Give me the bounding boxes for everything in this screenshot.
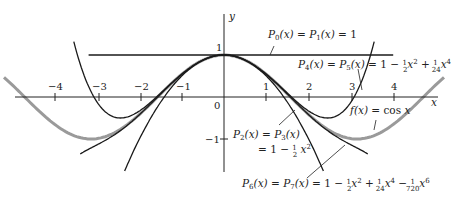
y-tick-label: −1 [205, 134, 220, 145]
origin-label: 0 [214, 100, 220, 111]
x-tick-label: −2 [134, 81, 149, 92]
x-tick-label: −3 [92, 81, 107, 92]
x-tick-label: −1 [176, 81, 191, 92]
y-axis-label: y [228, 10, 236, 22]
svg-text:= 1 − 12 x2: = 1 − 12 x2 [258, 143, 311, 159]
x-tick-label: 4 [391, 81, 397, 92]
taylor-polynomial-chart: −4 −3 −2 −1 1 2 3 4 0 1 −1 y x P0(x) = P… [0, 0, 451, 203]
svg-text:P4(x) = P5(x) = 1 − 12x2 + 124: P4(x) = P5(x) = 1 − 12x2 + 124x4 [297, 58, 451, 74]
x-tick-label: 3 [349, 81, 355, 92]
x-tick-label: −4 [48, 81, 63, 92]
x-tick-label: 2 [306, 81, 312, 92]
svg-text:f(x) = cos x: f(x) = cos x [349, 104, 410, 116]
annotation-p4: P4(x) = P5(x) = 1 − 12x2 + 124x4 [297, 58, 451, 90]
x-axis-label: x [431, 96, 437, 108]
svg-text:P0(x) = P1(x) = 1: P0(x) = P1(x) = 1 [267, 28, 357, 42]
y-tick-label: 1 [216, 42, 222, 53]
svg-text:P2(x) = P3(x): P2(x) = P3(x) [232, 128, 300, 142]
svg-text:P6(x) = P7(x) = 1 − 12x2 + 124: P6(x) = P7(x) = 1 − 12x2 + 124x4 − 1720x… [241, 177, 430, 193]
annotation-p0: P0(x) = P1(x) = 1 [267, 28, 357, 55]
annotation-p2: P2(x) = P3(x) = 1 − 12 x2 [232, 110, 311, 159]
x-tick-label: 1 [263, 81, 269, 92]
